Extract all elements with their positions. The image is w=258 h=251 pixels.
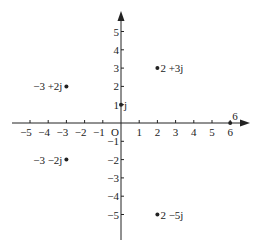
- point: 2 −5j: [155, 209, 183, 221]
- real-axis-tick-label: −1: [93, 126, 105, 138]
- imaginary-axis-tick-label: −3: [107, 172, 119, 184]
- point-label: 2 +3j: [160, 62, 183, 74]
- complex-plane-diagram: −5−4−3−2−1123456 54321−1−2−3−4−5 O 2 +3j…: [0, 0, 258, 251]
- real-axis-tick-label: −5: [20, 126, 32, 138]
- point-label: 2 −5j: [160, 209, 183, 221]
- real-axis-tick-label: 1: [136, 126, 142, 138]
- imaginary-axis-tick-label: 1: [114, 99, 120, 111]
- real-axis-tick-label: −2: [75, 126, 87, 138]
- point-dot-icon: [155, 66, 159, 70]
- point-dot-icon: [64, 84, 68, 88]
- diagram-canvas: −5−4−3−2−1123456 54321−1−2−3−4−5 O 2 +3j…: [0, 0, 258, 251]
- real-axis-tick-label: −4: [38, 126, 50, 138]
- real-axis-tick-label: 2: [155, 126, 161, 138]
- point: j: [119, 99, 127, 111]
- imaginary-axis-tick-label: −4: [107, 190, 119, 202]
- real-axis-arrow-icon: [240, 120, 250, 127]
- plotted-points: 2 +3j−3 +2jj−3 −2j2 −5j6: [33, 62, 238, 220]
- point-label: −3 +2j: [33, 80, 62, 92]
- point-dot-icon: [155, 213, 159, 217]
- imaginary-axis-tick-label: −2: [107, 154, 119, 166]
- imaginary-axis-tick-label: 3: [114, 62, 120, 74]
- point-label: j: [123, 99, 127, 111]
- real-axis-tick-label: 3: [173, 126, 179, 138]
- imaginary-axis-tick-label: −5: [107, 209, 119, 221]
- point: −3 −2j: [33, 154, 68, 166]
- point-dot-icon: [64, 158, 68, 162]
- imaginary-axis-tick-label: 5: [114, 26, 120, 38]
- point: 2 +3j: [155, 62, 183, 74]
- imaginary-axis-tick-label: 4: [114, 44, 120, 56]
- real-axis-tick-label: 4: [191, 126, 197, 138]
- point-dot-icon: [119, 103, 123, 107]
- real-axis-tick-label: 6: [227, 126, 233, 138]
- real-axis-tick-label: −3: [57, 126, 69, 138]
- point: −3 +2j: [33, 80, 68, 92]
- point-label: −3 −2j: [33, 154, 62, 166]
- real-axis-tick-label: 5: [209, 126, 215, 138]
- point-label: 6: [232, 110, 238, 122]
- origin-label: O: [111, 126, 119, 138]
- imaginary-axis-arrow-icon: [118, 11, 125, 21]
- imaginary-axis-tick-label: 2: [114, 80, 120, 92]
- real-axis-tick-labels: −5−4−3−2−1123456: [20, 126, 233, 138]
